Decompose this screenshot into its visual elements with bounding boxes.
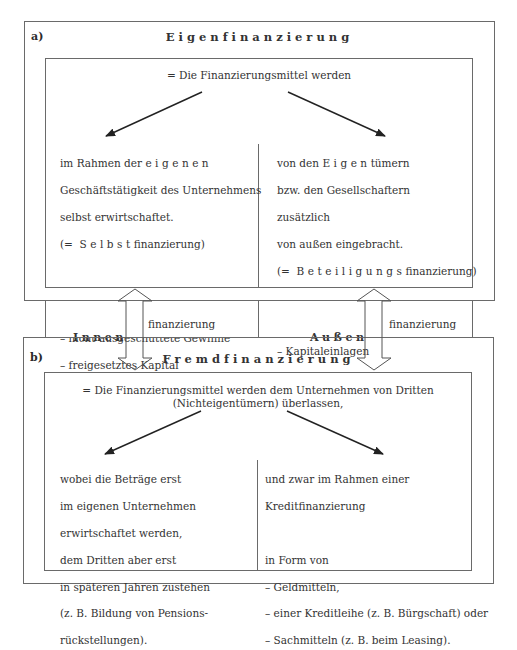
arrow-down-right-a — [288, 92, 385, 136]
arrow-down-right-b — [287, 411, 383, 454]
double-arrow-aussen — [357, 289, 391, 370]
double-arrow-innen — [118, 289, 152, 370]
arrow-down-left-b — [105, 411, 201, 454]
arrow-down-left-a — [106, 92, 202, 136]
